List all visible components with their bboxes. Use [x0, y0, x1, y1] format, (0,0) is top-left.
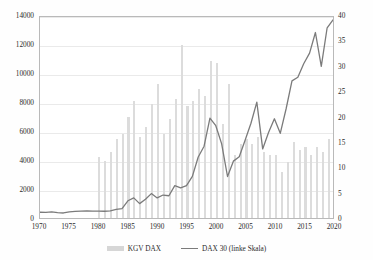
legend-line-swatch-icon — [181, 248, 198, 249]
y-left-tick-label: 0 — [0, 215, 34, 223]
legend-label-kgv-dax: KGV DAX — [128, 244, 161, 253]
y-left-tick-label: 6000 — [0, 128, 34, 136]
y-right-tick-label: 5 — [338, 190, 368, 198]
legend-label-dax-30: DAX 30 (linke Skala) — [202, 244, 266, 253]
y-left-tick-label: 10000 — [0, 70, 34, 78]
y-right-tick-label: 0 — [338, 215, 368, 223]
legend-item-dax-30: DAX 30 (linke Skala) — [181, 244, 266, 253]
y-right-tick-label: 30 — [338, 63, 368, 71]
chart-container: 02000400060008000100001200014000 0510152… — [0, 0, 373, 260]
legend-bar-swatch-icon — [107, 246, 124, 251]
y-left-tick-label: 14000 — [0, 12, 34, 20]
y-left-tick-label: 2000 — [0, 186, 34, 194]
chart-legend: KGV DAX DAX 30 (linke Skala) — [0, 240, 373, 256]
y-right-tick-label: 15 — [338, 139, 368, 147]
plot-area — [39, 16, 334, 219]
y-right-tick-label: 35 — [338, 37, 368, 45]
y-right-tick-label: 25 — [338, 88, 368, 96]
y-left-tick-label: 4000 — [0, 157, 34, 165]
x-tick-label: 2020 — [317, 223, 351, 231]
line-series-dax-30 — [40, 17, 333, 218]
y-left-tick-label: 8000 — [0, 99, 34, 107]
y-right-tick-label: 40 — [338, 12, 368, 20]
y-right-tick-label: 10 — [338, 164, 368, 172]
y-right-tick-label: 20 — [338, 114, 368, 122]
legend-item-kgv-dax: KGV DAX — [107, 244, 161, 253]
y-left-tick-label: 12000 — [0, 41, 34, 49]
